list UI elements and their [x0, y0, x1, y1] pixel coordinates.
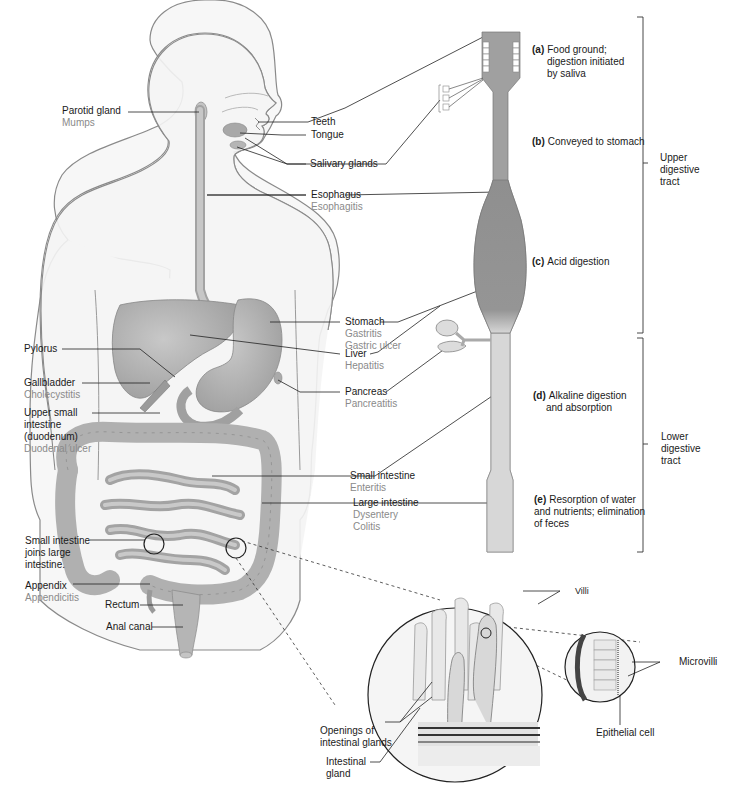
- label-large-intestine: Large intestine Dysentery Colitis: [353, 497, 419, 533]
- label-small-intestine: Small intestine Enteritis: [350, 470, 415, 494]
- step-c: (c)Acid digestion: [532, 256, 610, 268]
- label-lower-tract: Lower digestive tract: [661, 431, 700, 467]
- label-epithelial-cell: Epithelial cell: [596, 727, 654, 739]
- step-a: (a)Food ground; digestion initiated by s…: [532, 44, 624, 80]
- label-gallbladder: Gallbladder Cholecystitis: [24, 377, 80, 401]
- label-rectum: Rectum: [105, 599, 139, 611]
- label-appendix: Appendix Appendicitis: [25, 580, 79, 604]
- label-salivary-glands: Salivary glands: [310, 158, 378, 170]
- label-stomach: Stomach Gastritis Gastric ulcer: [345, 316, 401, 352]
- tract-tube: [436, 32, 526, 552]
- label-pylorus: Pylorus: [24, 343, 57, 355]
- label-duodenum: Upper small intestine (duodenum) Duodena…: [24, 407, 91, 455]
- label-upper-tract: Upper digestive tract: [660, 152, 699, 188]
- label-pancreas: Pancreas Pancreatitis: [345, 386, 397, 410]
- label-microvilli: Microvilli: [679, 656, 717, 668]
- step-e: (e)Resorption of water and nutrients; el…: [534, 494, 645, 530]
- label-teeth: Teeth: [311, 116, 335, 128]
- label-villi: Villi: [575, 585, 589, 597]
- step-d: (d)Alkaline digestion and absorption: [533, 390, 627, 414]
- label-esophagus: Esophagus Esophagitis: [311, 189, 363, 213]
- villi-detail: [368, 598, 542, 782]
- label-anal-canal: Anal canal: [106, 621, 153, 633]
- label-intestinal-gland: Intestinal gland: [326, 756, 366, 780]
- microvilli-detail: [565, 632, 635, 702]
- label-parotid-gland: Parotid gland Mumps: [62, 105, 121, 129]
- label-liver: Liver Hepatitis: [345, 348, 384, 372]
- step-b: (b)Conveyed to stomach: [532, 136, 645, 148]
- label-tongue: Tongue: [311, 129, 344, 141]
- label-openings-intestinal-glands: Openings of intestinal glands: [320, 725, 392, 749]
- label-junction: Small intestine joins large intestine.: [25, 535, 90, 571]
